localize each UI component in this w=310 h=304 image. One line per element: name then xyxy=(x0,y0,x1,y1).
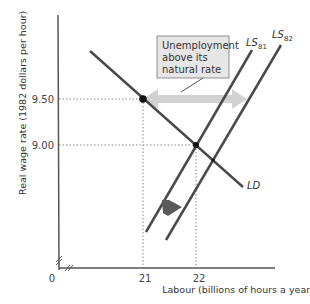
ls82-label: LS82 xyxy=(272,29,293,43)
unemployment-gap-arrow-icon xyxy=(143,89,247,109)
x-tick-21: 21 xyxy=(139,273,152,284)
ls81-label: LS81 xyxy=(246,37,267,51)
point-wage-9-50 xyxy=(139,95,147,103)
origin-label: 0 xyxy=(49,273,55,284)
y-tick-9-50: 9.50 xyxy=(32,94,54,105)
unemployment-callout: Unemployment above its natural rate xyxy=(157,36,239,92)
y-axis-label: Real wage rate (1982 dollars per hour) xyxy=(17,11,28,195)
labour-market-chart: Real wage rate (1982 dollars per hour) 9… xyxy=(0,0,310,304)
x-tick-22: 22 xyxy=(193,273,206,284)
callout-line-2: above its xyxy=(162,52,208,63)
x-axis-label: Labour (billions of hours a year) xyxy=(162,284,310,295)
callout-line-1: Unemployment xyxy=(162,40,239,51)
ld-label: LD xyxy=(247,180,261,191)
point-ls82-ld-intersection xyxy=(211,158,214,161)
y-tick-9-00: 9.00 xyxy=(32,140,54,151)
shift-arrow-icon xyxy=(162,200,182,216)
point-equilibrium-9-00 xyxy=(193,142,199,148)
callout-line-3: natural rate xyxy=(162,64,221,75)
y-axis xyxy=(58,15,59,270)
